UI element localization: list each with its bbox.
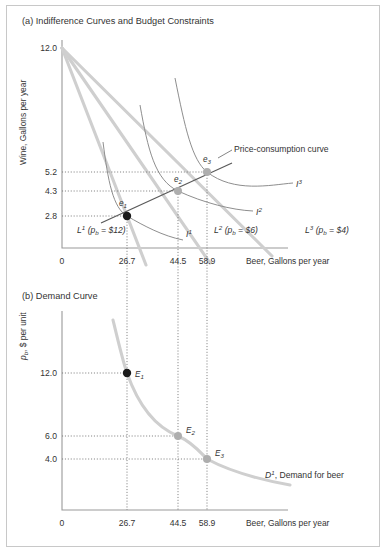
panel-a-xtick-44-5: 44.5 xyxy=(170,256,187,266)
figure-container: (a) Indifference Curves and Budget Const… xyxy=(0,0,386,552)
panel-b-ytick-4-0: 4.0 xyxy=(45,454,57,464)
panel-a-origin-label: 0 xyxy=(60,256,65,266)
panel-a-y-axis-title: Wine, Gallons per year xyxy=(18,80,28,165)
panel-b-xtick-58-9: 58.9 xyxy=(199,518,216,528)
label-E2: E2 xyxy=(186,426,195,436)
panel-a-title: (a) Indifference Curves and Budget Const… xyxy=(22,16,214,26)
panel-a-ytick-12-0: 12.0 xyxy=(40,43,57,53)
economics-figure-svg: (a) Indifference Curves and Budget Const… xyxy=(0,0,386,552)
label-demand-curve: D1, Demand for beer xyxy=(265,469,344,480)
panel-b-xtick-44-5: 44.5 xyxy=(170,518,187,528)
label-E1: E1 xyxy=(135,370,144,380)
label-budget-L3: L3 (pb = $4) xyxy=(305,224,349,237)
panel-a-x-axis-title: Beer, Gallons per year xyxy=(246,256,330,266)
equilibrium-point-e2 xyxy=(174,187,182,195)
label-budget-L1: L1 (pb = $12) xyxy=(77,224,126,237)
panel-b-xtick-26-7: 26.7 xyxy=(119,518,136,528)
equilibrium-point-e1 xyxy=(123,212,131,220)
label-I2: I2 xyxy=(256,206,262,217)
panel-b-origin-label: 0 xyxy=(60,518,65,528)
price-consumption-curve-label: Price-consumption curve xyxy=(234,144,329,154)
panel-b-title: (b) Demand Curve xyxy=(22,291,98,301)
label-e2: e2 xyxy=(174,175,183,185)
indifference-curve-I3 xyxy=(175,78,293,186)
panel-a-ytick-2-8: 2.8 xyxy=(45,211,57,221)
panel-a-ytick-4-3: 4.3 xyxy=(45,186,57,196)
label-I3: I3 xyxy=(296,178,302,189)
demand-point-E3 xyxy=(203,455,211,463)
panel-a-xtick-58-9: 58.9 xyxy=(199,256,216,266)
annotation-leader-line xyxy=(218,150,232,158)
panel-b-x-axis-title: Beer, Gallons per year xyxy=(246,518,330,528)
demand-point-E2 xyxy=(174,432,182,440)
label-e3: e3 xyxy=(203,155,212,165)
label-E3: E3 xyxy=(215,449,224,459)
label-e1: e1 xyxy=(119,199,127,209)
panel-b-y-axis-title: pb, $ per unit xyxy=(18,312,29,361)
demand-curve-D1 xyxy=(113,320,290,485)
equilibrium-point-e3 xyxy=(203,168,211,176)
panel-b-ytick-6-0: 6.0 xyxy=(45,431,57,441)
demand-point-E1 xyxy=(123,369,131,377)
panel-a-xtick-26-7: 26.7 xyxy=(119,256,136,266)
panel-b-axes xyxy=(62,311,288,510)
label-budget-L2: L2 (pb = $6) xyxy=(214,224,258,237)
panel-a-ytick-5-2: 5.2 xyxy=(45,167,57,177)
panel-b-ytick-12-0: 12.0 xyxy=(40,368,57,378)
